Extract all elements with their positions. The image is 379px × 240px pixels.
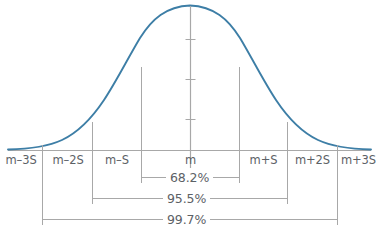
bell-curve-path — [8, 6, 371, 150]
axis-label-minus-2s: m–2S — [44, 153, 92, 167]
interval-label-99: 99.7% — [163, 212, 210, 227]
interval-label-68: 68.2% — [166, 170, 213, 185]
axis-label-minus-1s: m–S — [93, 153, 141, 167]
axis-label-minus-3s: m–3S — [0, 153, 42, 167]
normal-distribution-figure: m–3S m–2S m–S m m+S m+2S m+3S 68.2% 95.5… — [0, 0, 379, 240]
axis-label-plus-2s: m+2S — [288, 153, 337, 167]
axis-label-plus-1s: m+S — [240, 153, 287, 167]
axis-label-mean: m — [142, 153, 239, 167]
axis-label-plus-3s: m+3S — [338, 153, 379, 167]
interval-label-95: 95.5% — [163, 191, 210, 206]
